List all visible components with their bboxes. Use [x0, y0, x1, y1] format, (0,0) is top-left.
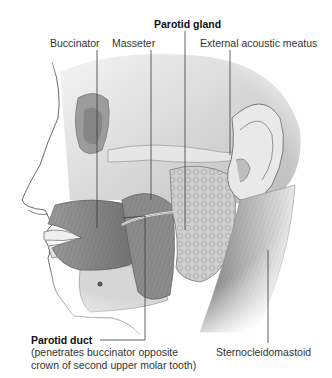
label-parotid-duct-note-1: (penetrates buccinator opposite — [31, 346, 178, 359]
label-external-acoustic-meatus: External acoustic meatus — [200, 37, 317, 49]
label-parotid-duct-note-2: crown of second upper molar tooth) — [31, 359, 196, 372]
label-parotid-gland: Parotid gland — [154, 18, 221, 30]
label-parotid-duct: Parotid duct — [31, 334, 92, 346]
head-illustration — [0, 0, 332, 378]
label-buccinator: Buccinator — [50, 37, 100, 49]
label-sternocleidomastoid: Sternocleidomastoid — [216, 346, 311, 358]
label-masseter: Masseter — [112, 37, 155, 49]
